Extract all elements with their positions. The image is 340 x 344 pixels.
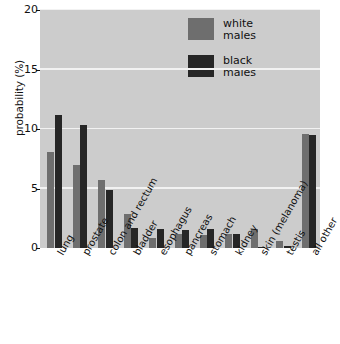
x-tick-label: colon and rectum xyxy=(107,176,159,257)
x-tick-label: kidney xyxy=(234,223,259,257)
x-tick-label: bladder xyxy=(132,219,160,257)
x-tick-label: lung xyxy=(56,233,76,257)
x-tick-label: testis xyxy=(285,228,307,257)
x-tick-label: skin (melanoma) xyxy=(259,179,310,257)
x-tick-label: all other xyxy=(310,216,339,257)
